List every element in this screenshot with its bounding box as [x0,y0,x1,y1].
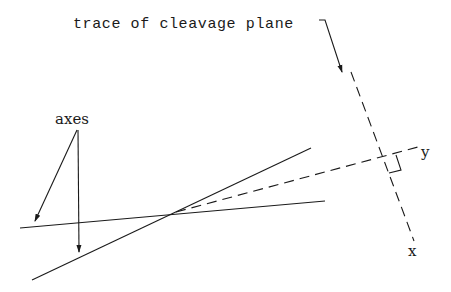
solid-line-2 [32,148,311,280]
x-label: x [408,242,417,260]
dashed-y-line [176,147,418,212]
axes-arrow-down [78,130,79,252]
trace-arrow [319,20,342,72]
solid-line-1 [20,201,325,228]
y-label: y [420,143,430,161]
diagram-canvas: trace of cleavage plane x y axes [0,0,451,292]
axes-arrow-left [35,130,77,221]
trace-label: trace of cleavage plane [73,16,294,33]
axes-label: axes [55,110,89,128]
right-angle-marker [389,155,401,173]
